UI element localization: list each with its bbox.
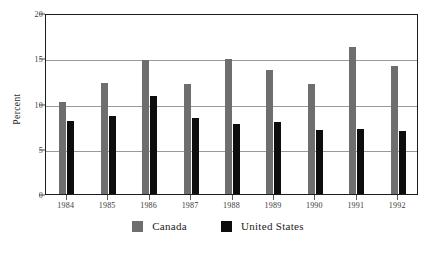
x-tick-label-1987: 1987 bbox=[167, 201, 213, 210]
x-tick-mark bbox=[397, 195, 398, 200]
x-tick-label-1991: 1991 bbox=[333, 201, 379, 210]
legend-item-united-states[interactable]: United States bbox=[221, 220, 304, 232]
bar-united-states-1992 bbox=[399, 131, 406, 194]
x-tick-mark bbox=[314, 195, 315, 200]
x-tick-mark bbox=[273, 195, 274, 200]
legend-label: Canada bbox=[152, 220, 187, 232]
plot-area bbox=[45, 14, 418, 195]
legend-swatch-icon bbox=[221, 221, 232, 232]
y-axis-title: Percent bbox=[12, 79, 22, 139]
x-tick-label-1988: 1988 bbox=[209, 201, 255, 210]
x-tick-label-1989: 1989 bbox=[250, 201, 296, 210]
x-tick-mark bbox=[190, 195, 191, 200]
x-tick-mark bbox=[356, 195, 357, 200]
chart-legend: CanadaUnited States bbox=[0, 220, 436, 232]
bar-canada-1992 bbox=[391, 66, 398, 195]
x-tick-mark bbox=[149, 195, 150, 200]
x-tick-label-1990: 1990 bbox=[291, 201, 337, 210]
bar-group bbox=[46, 15, 419, 194]
x-tick-label-1985: 1985 bbox=[84, 201, 130, 210]
x-tick-mark bbox=[232, 195, 233, 200]
x-tick-label-1984: 1984 bbox=[43, 201, 89, 210]
legend-label: United States bbox=[241, 220, 304, 232]
x-tick-mark bbox=[66, 195, 67, 200]
bar-chart: Percent 05101520 19841985198619871988198… bbox=[0, 0, 436, 253]
legend-item-canada[interactable]: Canada bbox=[132, 220, 187, 232]
x-tick-mark bbox=[107, 195, 108, 200]
x-tick-label-1986: 1986 bbox=[126, 201, 172, 210]
x-tick-label-1992: 1992 bbox=[374, 201, 420, 210]
legend-swatch-icon bbox=[132, 221, 143, 232]
